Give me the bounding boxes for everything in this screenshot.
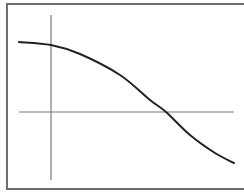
chart-plot — [0, 0, 244, 193]
